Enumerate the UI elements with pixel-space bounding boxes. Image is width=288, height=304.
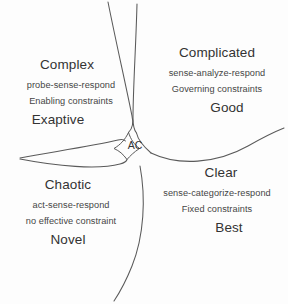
domain-chaotic-constraints: no effective constraint (0, 217, 142, 226)
domain-chaotic-quality: Novel (0, 233, 139, 247)
boundary-curve-left-lower (20, 159, 127, 167)
domain-complicated: Complicated sense-analyze-respond Govern… (146, 46, 288, 114)
domain-complex-approach: probe-sense-respond (0, 81, 142, 90)
domain-clear: Clear sense-categorize-respond Fixed con… (146, 166, 288, 234)
domain-complex-quality: Exaptive (0, 113, 129, 127)
domain-complex: Complex probe-sense-respond Enabling con… (0, 58, 142, 126)
domain-complicated-constraints: Governing constraints (146, 85, 288, 94)
domain-clear-approach: sense-categorize-respond (146, 189, 288, 198)
domain-clear-constraints: Fixed constraints (146, 205, 288, 214)
boundary-curve-right (151, 128, 284, 161)
cynefin-diagram: Complex probe-sense-respond Enabling con… (0, 0, 288, 304)
domain-chaotic-title: Chaotic (0, 178, 139, 192)
domain-complicated-title: Complicated (146, 46, 288, 60)
domain-complicated-approach: sense-analyze-respond (146, 69, 288, 78)
domain-complicated-quality: Good (156, 101, 288, 115)
domain-chaotic-approach: act-sense-respond (0, 201, 142, 210)
domain-complex-constraints: Enabling constraints (0, 97, 142, 106)
domain-clear-quality: Best (158, 221, 288, 235)
domain-clear-title: Clear (150, 166, 288, 180)
domain-chaotic: Chaotic act-sense-respond no effective c… (0, 178, 142, 246)
center-ac-label: AC (118, 139, 152, 151)
domain-complex-title: Complex (0, 58, 138, 72)
boundary-curve-left-upper (20, 139, 126, 158)
